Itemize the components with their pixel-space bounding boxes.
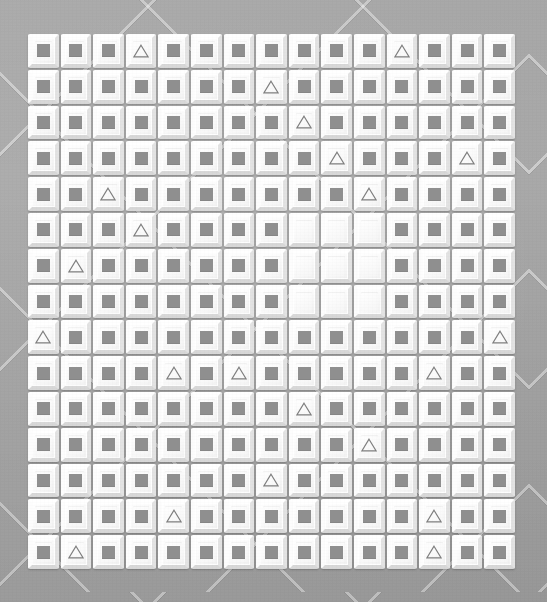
grid-tile[interactable] [418,427,451,463]
grid-tile[interactable] [288,33,321,69]
grid-tile[interactable] [483,105,516,141]
grid-tile[interactable] [483,391,516,427]
grid-tile[interactable] [288,463,321,499]
grid-tile[interactable] [60,427,93,463]
grid-tile[interactable] [353,284,386,320]
grid-tile[interactable] [27,355,60,391]
grid-tile[interactable] [223,319,256,355]
grid-tile[interactable] [223,427,256,463]
grid-tile[interactable] [320,248,353,284]
grid-tile[interactable] [255,69,288,105]
grid-tile[interactable] [255,212,288,248]
grid-tile[interactable] [125,212,158,248]
grid-tile[interactable] [386,212,419,248]
grid-tile[interactable] [60,498,93,534]
grid-tile[interactable] [92,284,125,320]
grid-tile[interactable] [255,140,288,176]
grid-tile[interactable] [451,391,484,427]
grid-tile[interactable] [223,391,256,427]
grid-tile[interactable] [157,355,190,391]
grid-tile[interactable] [255,534,288,570]
grid-tile[interactable] [27,284,60,320]
grid-tile[interactable] [288,140,321,176]
grid-tile[interactable] [27,105,60,141]
grid-tile[interactable] [353,248,386,284]
grid-tile[interactable] [353,355,386,391]
grid-tile[interactable] [320,140,353,176]
grid-tile[interactable] [288,391,321,427]
grid-tile[interactable] [483,212,516,248]
grid-tile[interactable] [288,319,321,355]
grid-tile[interactable] [386,69,419,105]
grid-tile[interactable] [386,284,419,320]
grid-tile[interactable] [27,212,60,248]
grid-tile[interactable] [190,140,223,176]
grid-tile[interactable] [353,105,386,141]
grid-tile[interactable] [157,427,190,463]
grid-tile[interactable] [223,140,256,176]
grid-tile[interactable] [320,355,353,391]
grid-tile[interactable] [353,391,386,427]
grid-tile[interactable] [418,498,451,534]
grid-tile[interactable] [386,463,419,499]
grid-tile[interactable] [60,355,93,391]
grid-tile[interactable] [60,140,93,176]
grid-tile[interactable] [451,69,484,105]
grid-tile[interactable] [60,534,93,570]
grid-tile[interactable] [451,355,484,391]
grid-tile[interactable] [125,534,158,570]
grid-tile[interactable] [190,69,223,105]
grid-tile[interactable] [353,319,386,355]
grid-tile[interactable] [190,248,223,284]
grid-tile[interactable] [125,319,158,355]
grid-tile[interactable] [288,105,321,141]
grid-tile[interactable] [190,33,223,69]
grid-tile[interactable] [223,212,256,248]
grid-tile[interactable] [320,69,353,105]
grid-tile[interactable] [27,140,60,176]
grid-tile[interactable] [386,105,419,141]
grid-tile[interactable] [386,176,419,212]
grid-tile[interactable] [320,463,353,499]
grid-tile[interactable] [353,212,386,248]
grid-tile[interactable] [157,248,190,284]
grid-tile[interactable] [92,427,125,463]
grid-tile[interactable] [92,69,125,105]
grid-tile[interactable] [125,355,158,391]
grid-tile[interactable] [190,105,223,141]
grid-tile[interactable] [255,355,288,391]
grid-tile[interactable] [125,69,158,105]
grid-tile[interactable] [223,105,256,141]
grid-tile[interactable] [157,319,190,355]
grid-tile[interactable] [223,33,256,69]
grid-tile[interactable] [288,498,321,534]
grid-tile[interactable] [320,427,353,463]
grid-tile[interactable] [320,33,353,69]
grid-tile[interactable] [483,427,516,463]
grid-tile[interactable] [255,463,288,499]
grid-tile[interactable] [27,33,60,69]
grid-tile[interactable] [190,176,223,212]
grid-tile[interactable] [27,391,60,427]
grid-tile[interactable] [483,69,516,105]
grid-tile[interactable] [255,248,288,284]
grid-tile[interactable] [92,33,125,69]
grid-tile[interactable] [451,212,484,248]
grid-tile[interactable] [92,248,125,284]
grid-tile[interactable] [451,319,484,355]
grid-tile[interactable] [60,284,93,320]
grid-tile[interactable] [125,105,158,141]
grid-tile[interactable] [353,534,386,570]
grid-tile[interactable] [353,69,386,105]
grid-tile[interactable] [483,463,516,499]
grid-tile[interactable] [255,33,288,69]
grid-tile[interactable] [320,534,353,570]
grid-tile[interactable] [125,463,158,499]
grid-tile[interactable] [157,69,190,105]
grid-tile[interactable] [157,463,190,499]
grid-tile[interactable] [190,534,223,570]
grid-tile[interactable] [418,33,451,69]
grid-tile[interactable] [288,176,321,212]
grid-tile[interactable] [288,212,321,248]
grid-tile[interactable] [386,319,419,355]
